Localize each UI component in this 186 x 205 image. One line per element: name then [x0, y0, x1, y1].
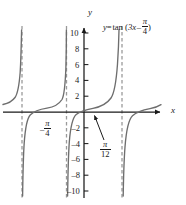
equation-inner-term: 3x	[128, 22, 136, 32]
x-axis-label: x	[171, 106, 175, 115]
fraction-numerator: π	[44, 119, 50, 128]
equation-close-paren: )	[148, 22, 151, 32]
y-tick-label: –8	[72, 171, 81, 180]
fraction-pi-over-4: π4	[44, 119, 50, 138]
y-tick-label: –6	[72, 155, 81, 164]
equation-relation: =	[107, 22, 112, 32]
y-tick-label: 10	[70, 29, 79, 38]
tangent-curve-group	[3, 30, 161, 196]
tangent-branch	[23, 30, 67, 196]
y-tick-label: –4	[72, 140, 81, 149]
y-tick-label: 8	[75, 45, 79, 54]
y-axis-label: y	[88, 8, 92, 17]
equation-function-name: tan	[112, 22, 123, 32]
annotation-arrow-pi-over-12	[95, 116, 105, 141]
fraction-denominator: 12	[100, 149, 111, 159]
fraction-pi-over-12: π12	[100, 140, 111, 159]
fraction-denominator: 4	[44, 128, 50, 138]
equation-label: y= tan (3x – π4)	[103, 17, 151, 36]
tangent-branch	[123, 105, 161, 196]
x-tick-label-neg-pi-over-4: –π4	[40, 119, 51, 138]
tangent-function-graph: x y 10 8 6 4 2 –2 –4 –6 –8 –10 y= tan (3…	[0, 0, 186, 205]
equation-minus-sign: –	[137, 22, 141, 32]
tangent-branch	[3, 30, 22, 105]
annotation-label-pi-over-12: π12	[100, 140, 111, 159]
graph-canvas	[0, 0, 186, 205]
y-tick-label: 2	[75, 92, 79, 101]
y-tick-label: 4	[75, 76, 79, 85]
y-tick-label: –10	[67, 187, 80, 196]
y-tick-label: 6	[75, 61, 79, 70]
y-tick-label: –2	[72, 124, 81, 133]
fraction-numerator: π	[100, 140, 111, 149]
